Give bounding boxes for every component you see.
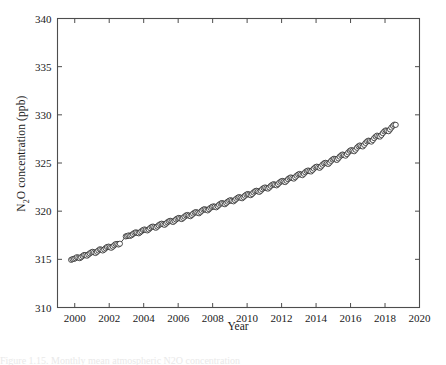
caption-fragment: Figure 1.15. Monthly mean atmospheric N2… — [0, 356, 446, 365]
x-tick-label: 2004 — [133, 312, 156, 324]
x-tick-label: 2014 — [305, 312, 328, 324]
x-tick-label: 2016 — [340, 312, 363, 324]
chart-background — [0, 0, 446, 365]
x-tick-label: 2008 — [202, 312, 225, 324]
y-tick-label: 315 — [35, 253, 52, 265]
n2o-concentration-chart: 2000200220042006200820102012201420162018… — [0, 0, 446, 365]
y-tick-label: 310 — [35, 302, 52, 314]
y-axis-title: N2O concentration (ppb) — [15, 95, 30, 211]
y-tick-label: 330 — [35, 109, 52, 121]
x-tick-label: 2012 — [271, 312, 293, 324]
x-tick-label: 2006 — [167, 312, 190, 324]
y-tick-label: 320 — [35, 205, 52, 217]
y-axis-title-suffix: O concentration (ppb) — [15, 95, 27, 199]
figure-container: 2000200220042006200820102012201420162018… — [0, 0, 446, 365]
x-tick-label: 2002 — [98, 312, 120, 324]
y-axis-title-wrapper: N2O concentration (ppb) — [12, 0, 34, 307]
y-axis-title-prefix: N — [15, 203, 27, 211]
x-tick-label: 2000 — [64, 312, 87, 324]
y-tick-label: 340 — [35, 13, 52, 25]
y-tick-label: 325 — [35, 157, 52, 169]
x-axis-title: Year — [227, 320, 248, 332]
y-tick-label: 335 — [35, 61, 52, 73]
x-tick-label: 2018 — [374, 312, 397, 324]
x-tick-label: 2020 — [409, 312, 432, 324]
y-axis-title-subscript: 2 — [22, 199, 31, 203]
